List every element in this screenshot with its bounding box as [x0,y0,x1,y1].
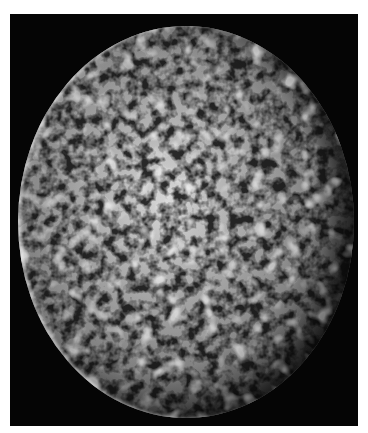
photo-frame [10,14,358,426]
moon-disc [18,26,354,418]
moon-texture [18,26,354,418]
